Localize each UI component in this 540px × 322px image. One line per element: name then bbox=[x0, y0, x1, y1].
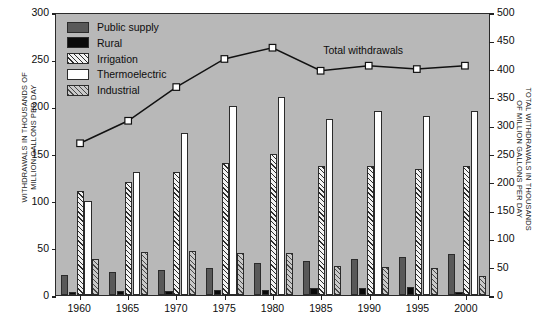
bar-rural-1995 bbox=[407, 287, 414, 295]
x-tick-label-1970: 1970 bbox=[154, 303, 198, 314]
y-tick-label-right: 200 bbox=[497, 177, 529, 188]
bar-industrial-1985 bbox=[334, 266, 341, 295]
bar-public-supply-1960 bbox=[61, 275, 68, 295]
bar-irrigation-2000 bbox=[463, 166, 470, 295]
y-tick-label-right: 350 bbox=[497, 92, 529, 103]
total-withdrawals-polyline bbox=[80, 48, 465, 144]
y-tick-label-right: 300 bbox=[497, 120, 529, 131]
y-tick-mark-right bbox=[489, 13, 494, 14]
bar-irrigation-1995 bbox=[415, 169, 422, 295]
total-withdrawals-marker-1970 bbox=[173, 84, 180, 91]
x-tick-mark bbox=[370, 295, 371, 300]
y-tick-mark-right bbox=[489, 240, 494, 241]
y-tick-label-left: 50 bbox=[19, 243, 49, 254]
total-withdrawals-marker-1965 bbox=[125, 118, 132, 125]
y-tick-mark-right bbox=[489, 42, 494, 43]
bar-industrial-1970 bbox=[189, 251, 196, 295]
bar-thermoelectric-1995 bbox=[423, 116, 430, 295]
bar-industrial-1965 bbox=[141, 252, 148, 295]
bar-thermoelectric-2000 bbox=[471, 111, 478, 295]
y-tick-label-right: 400 bbox=[497, 64, 529, 75]
bar-rural-1985 bbox=[310, 288, 317, 295]
bar-thermoelectric-1975 bbox=[229, 106, 236, 295]
bar-public-supply-1990 bbox=[351, 259, 358, 295]
bar-thermoelectric-1985 bbox=[326, 119, 333, 295]
x-tick-mark bbox=[176, 295, 177, 300]
y-tick-label-right: 450 bbox=[497, 35, 529, 46]
x-tick-label-1985: 1985 bbox=[299, 303, 343, 314]
total-withdrawals-marker-1980 bbox=[269, 44, 276, 51]
y-tick-label-left: 150 bbox=[19, 149, 49, 160]
x-tick-mark bbox=[466, 295, 467, 300]
total-withdrawals-marker-1960 bbox=[77, 140, 84, 147]
total-withdrawals-marker-1985 bbox=[317, 67, 324, 74]
bar-rural-1970 bbox=[165, 291, 172, 295]
y-tick-mark-right bbox=[489, 268, 494, 269]
bar-thermoelectric-1980 bbox=[278, 97, 285, 295]
bar-rural-1975 bbox=[214, 290, 221, 295]
y-tick-mark-right bbox=[489, 296, 494, 297]
y-tick-mark-right bbox=[489, 70, 494, 71]
y-tick-mark-right bbox=[489, 212, 494, 213]
bar-rural-1980 bbox=[262, 290, 269, 295]
bar-irrigation-1990 bbox=[367, 166, 374, 295]
bar-thermoelectric-1970 bbox=[181, 133, 188, 295]
chart-figure: WITHDRAWALS IN THOUSANDS OF MILLION GALL… bbox=[0, 0, 540, 322]
total-withdrawals-marker-1995 bbox=[414, 66, 421, 73]
bar-industrial-1995 bbox=[431, 268, 438, 295]
bar-rural-2000 bbox=[455, 292, 462, 295]
y-tick-mark-right bbox=[489, 183, 494, 184]
bar-public-supply-2000 bbox=[448, 254, 455, 295]
bar-rural-1965 bbox=[117, 291, 124, 295]
bar-industrial-1980 bbox=[286, 253, 293, 295]
x-tick-label-1995: 1995 bbox=[396, 303, 440, 314]
bar-irrigation-1960 bbox=[77, 191, 84, 295]
total-withdrawals-marker-2000 bbox=[462, 62, 469, 69]
y-tick-label-left: 0 bbox=[19, 290, 49, 301]
bar-public-supply-1965 bbox=[109, 272, 116, 295]
y-tick-label-left: 250 bbox=[19, 54, 49, 65]
bar-irrigation-1985 bbox=[318, 166, 325, 295]
bar-rural-1960 bbox=[69, 292, 76, 295]
bar-thermoelectric-1965 bbox=[133, 172, 140, 295]
bar-public-supply-1980 bbox=[254, 263, 261, 295]
y-tick-label-right: 100 bbox=[497, 233, 529, 244]
bar-public-supply-1970 bbox=[158, 270, 165, 295]
bar-industrial-1990 bbox=[382, 267, 389, 295]
x-tick-mark bbox=[321, 295, 322, 300]
x-tick-label-2000: 2000 bbox=[444, 303, 488, 314]
y-tick-mark-right bbox=[489, 155, 494, 156]
x-tick-mark bbox=[273, 295, 274, 300]
bar-public-supply-1985 bbox=[303, 261, 310, 295]
y-tick-label-right: 500 bbox=[497, 7, 529, 18]
total-withdrawals-marker-1990 bbox=[365, 62, 372, 69]
y-tick-mark-right bbox=[489, 127, 494, 128]
x-tick-label-1965: 1965 bbox=[106, 303, 150, 314]
y-tick-label-right: 250 bbox=[497, 149, 529, 160]
bar-thermoelectric-1960 bbox=[84, 201, 91, 295]
y-tick-mark-right bbox=[489, 98, 494, 99]
bar-industrial-2000 bbox=[479, 276, 486, 295]
bar-irrigation-1980 bbox=[270, 154, 277, 296]
y-tick-label-left: 300 bbox=[19, 7, 49, 18]
x-tick-label-1960: 1960 bbox=[57, 303, 101, 314]
bar-industrial-1975 bbox=[237, 253, 244, 295]
bar-irrigation-1965 bbox=[125, 182, 132, 295]
x-tick-label-1975: 1975 bbox=[202, 303, 246, 314]
bar-thermoelectric-1990 bbox=[374, 111, 381, 295]
bar-industrial-1960 bbox=[92, 259, 99, 295]
bar-irrigation-1970 bbox=[173, 172, 180, 295]
bar-public-supply-1975 bbox=[206, 268, 213, 295]
y-tick-label-right: 0 bbox=[497, 290, 529, 301]
x-tick-mark bbox=[128, 295, 129, 300]
bar-rural-1990 bbox=[359, 288, 366, 295]
x-tick-label-1980: 1980 bbox=[251, 303, 295, 314]
x-tick-mark bbox=[80, 295, 81, 300]
y-tick-label-right: 50 bbox=[497, 262, 529, 273]
x-tick-label-1990: 1990 bbox=[347, 303, 391, 314]
plot-area: Public supplyRuralIrrigationThermoelectr… bbox=[55, 13, 490, 296]
total-withdrawals-marker-1975 bbox=[221, 56, 228, 63]
y-tick-label-left: 200 bbox=[19, 101, 49, 112]
x-tick-mark bbox=[418, 295, 419, 300]
bar-public-supply-1995 bbox=[399, 257, 406, 295]
